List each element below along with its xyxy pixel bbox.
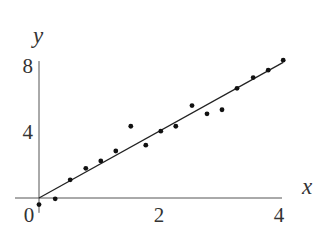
data-point	[128, 124, 133, 129]
scatter-chart: 02448 x y	[0, 0, 336, 234]
data-point	[281, 58, 286, 63]
data-point	[220, 107, 225, 112]
data-point	[98, 158, 103, 163]
data-point	[190, 103, 195, 108]
data-point	[173, 124, 178, 129]
data-point	[235, 86, 240, 91]
x-tick-label: 0	[24, 203, 35, 227]
data-point	[143, 143, 148, 148]
data-point	[251, 75, 256, 80]
data-point	[53, 196, 58, 201]
data-points	[37, 58, 286, 207]
data-point	[37, 202, 42, 207]
y-tick-label: 4	[23, 120, 34, 144]
data-point	[266, 68, 271, 73]
data-point	[205, 111, 210, 116]
tick-labels: 02448	[23, 54, 285, 227]
data-point	[83, 166, 88, 171]
data-point	[68, 177, 73, 182]
data-point	[158, 129, 163, 134]
data-point	[113, 149, 118, 154]
x-tick-label: 2	[154, 203, 165, 227]
y-tick-label: 8	[23, 54, 34, 78]
x-axis-label: x	[301, 174, 313, 199]
x-tick-label: 4	[274, 203, 285, 227]
y-axis-label: y	[31, 23, 44, 48]
